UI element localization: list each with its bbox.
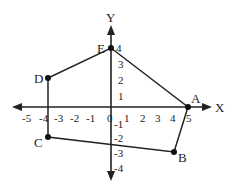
y-tick-label: 1 xyxy=(118,90,124,102)
label-a: A xyxy=(191,91,201,106)
y-tick-label: -2 xyxy=(114,132,123,144)
coordinate-diagram: X Y -5 -4 -3 -2 -1 0 1 2 3 4 5 4 3 2 1 -… xyxy=(0,0,235,187)
label-d: D xyxy=(34,71,43,86)
y-tick-label: -3 xyxy=(114,147,124,159)
y-axis-up-arrow-icon xyxy=(107,25,115,35)
x-axis-right-arrow-icon xyxy=(202,103,212,111)
x-axis-label: X xyxy=(215,100,225,115)
label-b: B xyxy=(178,150,187,165)
x-tick-labels: -5 -4 -3 -2 -1 0 1 2 3 4 5 xyxy=(22,112,192,124)
point-d xyxy=(45,75,51,81)
origin-label: 0 xyxy=(107,112,113,124)
x-tick-label: -4 xyxy=(39,112,49,124)
x-tick-label: 4 xyxy=(170,112,176,124)
x-tick-label: 1 xyxy=(124,112,130,124)
point-b xyxy=(171,149,177,155)
point-e xyxy=(108,45,114,51)
x-tick-label: 5 xyxy=(186,112,192,124)
label-c: C xyxy=(34,135,43,150)
x-tick-label: -3 xyxy=(54,112,64,124)
y-tick-label: -1 xyxy=(114,118,123,130)
y-tick-label: -4 xyxy=(114,162,124,174)
x-tick-label: -2 xyxy=(70,112,79,124)
y-axis-label: Y xyxy=(106,10,116,25)
x-axis-left-arrow-icon xyxy=(12,103,22,111)
point-c xyxy=(45,134,51,140)
y-tick-label: 3 xyxy=(118,58,124,70)
x-tick-label: -1 xyxy=(86,112,95,124)
y-tick-label: 2 xyxy=(118,74,124,86)
y-tick-label: 4 xyxy=(116,42,122,54)
y-tick-labels: 4 3 2 1 -1 -2 -3 -4 xyxy=(114,42,124,174)
label-e: E xyxy=(97,41,105,56)
x-tick-label: -5 xyxy=(22,112,32,124)
x-tick-label: 3 xyxy=(155,112,161,124)
x-tick-label: 2 xyxy=(140,112,146,124)
